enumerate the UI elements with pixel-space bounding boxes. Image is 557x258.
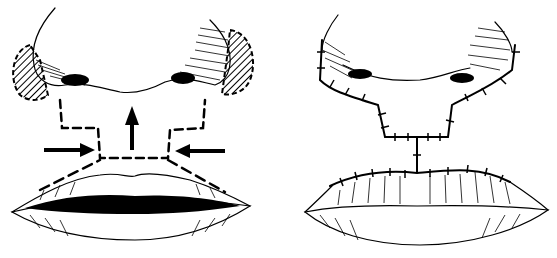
left-nostril-postop xyxy=(348,69,372,79)
lip-lift-illustration xyxy=(0,0,557,258)
right-nostril-postop xyxy=(450,73,474,83)
nose-shading-postop xyxy=(322,28,510,78)
right-panel-postop xyxy=(305,15,548,245)
lips-preop xyxy=(12,174,250,240)
suture-stitches xyxy=(317,52,520,186)
left-alar-excision xyxy=(13,45,48,100)
arrow-left-icon xyxy=(175,144,225,158)
arrow-right-icon xyxy=(44,143,95,157)
right-nostril xyxy=(171,72,195,84)
left-nostril xyxy=(61,74,89,86)
left-panel-preop xyxy=(12,8,253,240)
arrow-up-icon xyxy=(125,106,139,150)
